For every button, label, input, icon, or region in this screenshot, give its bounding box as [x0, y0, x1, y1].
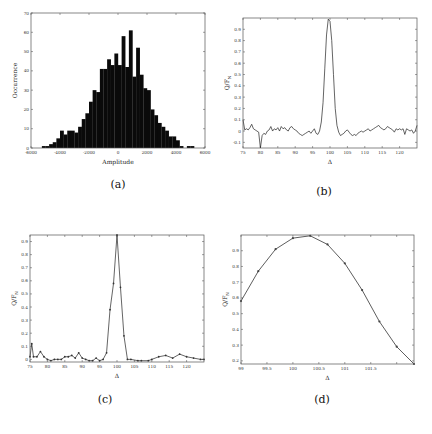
y-tick-label: 0.5: [234, 72, 241, 77]
histogram-bar: [143, 88, 147, 148]
x-tick-label: 101: [341, 366, 349, 371]
y-tick-label: 20: [24, 107, 30, 112]
marker-point: [60, 358, 62, 360]
marker-point: [67, 356, 69, 358]
x-tick-label: 80: [45, 364, 51, 369]
data-markers: [240, 235, 415, 365]
histogram-bar: [53, 142, 57, 148]
y-tick-label: 0.5: [21, 291, 28, 296]
histogram-bar: [75, 133, 79, 148]
x-tick-label: 99.5: [262, 366, 272, 371]
marker-point: [78, 352, 80, 354]
marker-point: [137, 360, 139, 362]
figure-panel-c: 758085909510010511011512000.10.20.30.40.…: [0, 215, 216, 415]
histogram-bar: [111, 65, 115, 148]
x-tick-label: 95: [97, 364, 103, 369]
y-tick-label: 0: [25, 357, 28, 362]
marker-point: [50, 360, 52, 362]
y-tick-label: 30: [24, 88, 30, 93]
marker-point: [95, 357, 97, 359]
histogram-bar: [82, 119, 86, 148]
marker-point: [33, 356, 35, 358]
data-line: [243, 19, 417, 148]
x-tick-label: 100: [113, 364, 121, 369]
y-tick-label: 60: [24, 30, 30, 35]
marker-point: [43, 356, 45, 358]
x-tick-label: 110: [148, 364, 156, 369]
y-tick-label: 0.3: [21, 318, 28, 323]
y-tick-label: 0.7: [234, 49, 241, 54]
marker-point: [292, 237, 294, 239]
plot-frame: [241, 235, 414, 364]
x-tick-label: 85: [275, 150, 281, 155]
y-tick-label: 70: [24, 11, 30, 16]
histogram-bar: [100, 69, 104, 148]
x-tick-label: 4000: [171, 150, 182, 155]
y-tick-label: 0.9: [232, 248, 239, 253]
x-tick-label: 100.5: [313, 366, 325, 371]
marker-point: [36, 356, 38, 358]
histogram-bar: [49, 144, 53, 148]
y-tick-label: 50: [24, 49, 30, 54]
marker-point: [257, 270, 259, 272]
x-tick-label: 80: [258, 150, 264, 155]
marker-point: [74, 357, 76, 359]
y-tick-label: 0.4: [234, 83, 241, 88]
histogram-bar: [136, 48, 140, 148]
histogram-bar: [122, 36, 126, 148]
figure-panel-a: -6000-4000-20000200040006000010203040506…: [0, 0, 216, 205]
x-tick-label: 95: [310, 150, 316, 155]
y-tick-label: 0.6: [234, 61, 241, 66]
histogram-bar: [147, 90, 151, 148]
marker-point: [113, 283, 115, 285]
marker-point: [344, 262, 346, 264]
y-axis-label: Q/FN: [223, 75, 232, 90]
histogram-bar: [71, 131, 75, 148]
marker-point: [193, 357, 195, 359]
x-tick-label: 115: [378, 150, 386, 155]
histogram-bar: [169, 136, 173, 148]
line-chart-c: 758085909510010511011512000.10.20.30.40.…: [0, 215, 216, 415]
cropped-caption-text: [0, 426, 432, 434]
marker-point: [172, 357, 174, 359]
histogram-bar: [129, 30, 133, 148]
y-tick-label: 0.3: [232, 343, 239, 348]
marker-point: [99, 360, 101, 362]
y-tick-label: 10: [24, 126, 30, 131]
marker-point: [140, 360, 142, 362]
data-line: [30, 235, 204, 361]
marker-point: [361, 289, 363, 291]
marker-point: [81, 357, 83, 359]
x-tick-label: 0: [117, 150, 120, 155]
data-line: [241, 236, 414, 364]
x-axis-label: Δ: [115, 372, 120, 379]
x-tick-label: 120: [183, 364, 191, 369]
x-tick-label: 6000: [200, 150, 211, 155]
histogram-bar: [96, 92, 100, 148]
histogram-bar: [118, 65, 122, 148]
marker-point: [326, 243, 328, 245]
marker-point: [130, 358, 132, 360]
marker-point: [109, 309, 111, 311]
marker-point: [92, 360, 94, 362]
histogram-bar: [125, 67, 129, 148]
y-axis-label: Q/FN: [221, 292, 230, 307]
x-axis-label: Δ: [328, 158, 333, 165]
marker-point: [200, 358, 202, 360]
histogram-bar: [154, 115, 158, 148]
marker-point: [120, 286, 122, 288]
y-tick-label: 0: [26, 146, 29, 151]
histogram-bar: [140, 75, 144, 148]
data-markers: [29, 234, 205, 361]
histogram-bar: [151, 109, 155, 148]
x-tick-label: 115: [165, 364, 173, 369]
histogram-bar: [67, 131, 71, 148]
figure-panel-d: 9999.5100100.5101101.50.20.30.40.50.60.7…: [216, 210, 432, 420]
x-tick-label: -2000: [83, 150, 95, 155]
y-axis-label: Q/FN: [10, 291, 19, 306]
x-tick-label: 101.5: [365, 366, 377, 371]
marker-point: [275, 248, 277, 250]
histogram-bar: [56, 138, 60, 148]
line-chart-d: 9999.5100100.5101101.50.20.30.40.50.60.7…: [216, 210, 432, 420]
histogram-bar: [158, 123, 162, 148]
